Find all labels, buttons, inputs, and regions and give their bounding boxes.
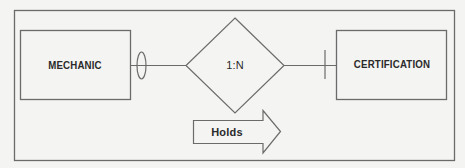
entity-certification-label: CERTIFICATION	[354, 58, 430, 70]
relationship-cardinality-label: 1:N	[226, 59, 244, 71]
direction-arrow-label: Holds	[211, 126, 243, 138]
diagram-frame	[15, 11, 455, 161]
entity-mechanic-label: MECHANIC	[48, 59, 102, 71]
er-diagram-canvas	[0, 0, 465, 168]
